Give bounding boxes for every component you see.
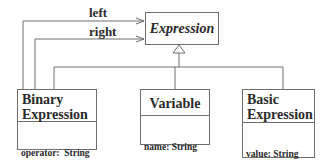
expression-class: Expression xyxy=(145,12,219,45)
basic-expression-class: Basic Expression value: String type: int… xyxy=(242,89,315,158)
binary-expression-attributes: operator: String xyxy=(18,121,96,167)
attribute: value: String xyxy=(246,149,314,160)
basic-expression-attributes: value: String type: integer xyxy=(243,122,314,167)
left-association-line xyxy=(23,21,144,89)
basic-expression-title: Basic Expression xyxy=(243,90,314,122)
variable-title: Variable xyxy=(141,90,209,115)
binary-expression-class: Binary Expression operator: String xyxy=(17,89,97,150)
generalization-triangle-icon xyxy=(173,45,185,53)
left-association-label: left xyxy=(89,6,107,19)
class-name-line: Basic xyxy=(247,92,314,107)
expression-class-name: Expression xyxy=(150,21,215,36)
variable-attributes: name: String xyxy=(141,115,209,167)
binary-expression-title: Binary Expression xyxy=(18,90,96,121)
attribute: name: String xyxy=(144,142,209,153)
class-name-line: Binary xyxy=(22,92,96,107)
class-name-line: Variable xyxy=(141,96,209,111)
right-association-line xyxy=(35,39,144,89)
class-name-line: Expression xyxy=(22,107,96,122)
variable-class: Variable name: String xyxy=(140,89,210,145)
right-association-label: right xyxy=(89,25,116,38)
class-name-line: Expression xyxy=(247,107,314,122)
attribute: operator: String xyxy=(21,148,96,159)
